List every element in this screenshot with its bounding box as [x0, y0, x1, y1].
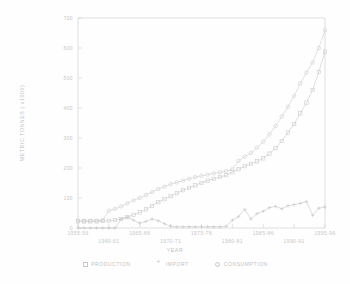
series-production: [76, 50, 326, 223]
y-tick-label: 400: [63, 105, 73, 111]
legend-label-consumption: CONSUMPTION: [224, 261, 268, 267]
y-tick-label: 700: [63, 15, 73, 21]
y-tick-label: 500: [63, 75, 73, 81]
legend-label-production: PRODUCTION: [91, 261, 131, 267]
x-tick-label: 1985-86: [253, 230, 274, 236]
circle-marker-icon: [215, 262, 220, 267]
chart-plot: 01002003004005006007001955-561960-611965…: [0, 0, 350, 284]
square-marker-icon: [82, 262, 87, 267]
chart-legend: PRODUCTION IMPORT CONSUMPTION: [0, 261, 350, 267]
legend-item-production: PRODUCTION: [82, 261, 131, 267]
x-tick-label: 1990-91: [284, 238, 305, 244]
x-tick-label: 1955-56: [67, 230, 88, 236]
y-tick-label: 200: [63, 165, 73, 171]
chart-container: 01002003004005006007001955-561960-611965…: [0, 0, 350, 284]
x-axis-title: YEAR: [0, 247, 350, 253]
x-tick-label: 1970-71: [160, 238, 181, 244]
x-tick-label: 1965-66: [129, 230, 150, 236]
legend-item-import: IMPORT: [157, 261, 189, 267]
x-tick-label: 1980-81: [222, 238, 243, 244]
y-tick-label: 600: [63, 45, 73, 51]
y-tick-label: 100: [63, 195, 73, 201]
series-import: [76, 200, 327, 230]
y-tick-label: 300: [63, 135, 73, 141]
x-tick-label: 1975-76: [191, 230, 212, 236]
y-axis-title: METRIC TONNES ( x1000): [19, 63, 25, 183]
legend-item-consumption: CONSUMPTION: [215, 261, 268, 267]
legend-label-import: IMPORT: [166, 261, 189, 267]
plus-marker-icon: [157, 262, 162, 267]
series-consumption: [76, 28, 327, 222]
x-tick-label: 1960-61: [98, 238, 119, 244]
x-tick-label: 1995-96: [314, 230, 335, 236]
